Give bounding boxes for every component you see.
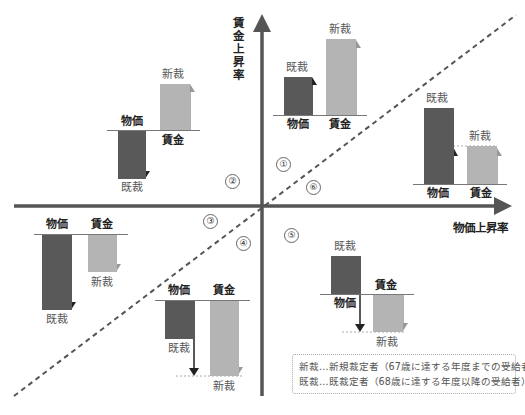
region-1-marker: ① <box>276 157 291 172</box>
chingin-label: 賃金 <box>375 280 397 292</box>
down-arrow-icon <box>189 368 199 376</box>
kisai-label: 既裁 <box>286 62 308 74</box>
bukka-label: 物価 <box>46 219 68 231</box>
existing-bar <box>165 301 194 339</box>
x-axis-title: 物価上昇率 <box>453 222 508 235</box>
x-axis-arrowhead <box>494 197 512 215</box>
legend-box: 新裁…新規裁定者（67歳に達する年度までの受給者） 既裁…既裁定者（68歳に達す… <box>292 354 516 394</box>
existing-bar <box>284 77 312 115</box>
region-5-marker: ⑤ <box>284 228 299 243</box>
chingin-label: 賃金 <box>162 135 184 147</box>
baseline <box>413 184 507 185</box>
bukka-label: 物価 <box>334 298 356 310</box>
shinsai-label: 新裁 <box>91 277 113 289</box>
region-2-marker: ② <box>225 174 240 189</box>
legend-line-shinsai: 新裁…新規裁定者（67歳に達する年度までの受給者） <box>293 359 515 374</box>
shinsai-label: 新裁 <box>213 381 235 393</box>
shinsai-label: 新裁 <box>162 69 184 81</box>
kisai-label: 既裁 <box>334 241 356 253</box>
axes-graphic <box>0 0 525 415</box>
chingin-label: 賃金 <box>213 285 235 297</box>
shinsai-label: 新裁 <box>376 337 398 349</box>
new-bar <box>373 295 403 332</box>
kisai-label: 既裁 <box>121 182 143 194</box>
y-axis-arrowhead <box>253 14 271 32</box>
kisai-label: 既裁 <box>46 314 68 326</box>
shinsai-label: 新裁 <box>469 131 491 143</box>
existing-bar <box>424 108 454 184</box>
kisai-label: 既裁 <box>168 343 190 355</box>
bukka-label: 物価 <box>168 285 190 297</box>
kisai-label: 既裁 <box>426 93 448 105</box>
new-bar <box>88 235 117 272</box>
shinsai-label: 新裁 <box>329 24 351 36</box>
region-4-marker: ④ <box>236 236 251 251</box>
chingin-label: 賃金 <box>329 119 351 131</box>
bukka-label: 物価 <box>121 116 143 128</box>
new-bar <box>467 146 497 184</box>
chingin-label: 賃金 <box>91 219 113 231</box>
chingin-label: 賃金 <box>470 188 492 200</box>
new-bar <box>210 301 239 376</box>
baseline <box>273 115 367 116</box>
legend-line-kisai: 既裁…既裁定者（68歳に達する年度以降の受給者） <box>293 374 515 389</box>
existing-bar <box>118 131 146 179</box>
region-6-marker: ⑥ <box>306 180 321 195</box>
bukka-label: 物価 <box>427 188 449 200</box>
region-3-marker: ③ <box>203 214 218 229</box>
y-axis-title: 賃金上昇率 <box>233 17 246 82</box>
existing-bar <box>331 256 361 294</box>
down-arrow-icon <box>355 324 365 332</box>
existing-bar <box>42 235 72 310</box>
new-bar <box>160 84 190 130</box>
bukka-label: 物価 <box>287 119 309 131</box>
new-bar <box>326 39 356 115</box>
